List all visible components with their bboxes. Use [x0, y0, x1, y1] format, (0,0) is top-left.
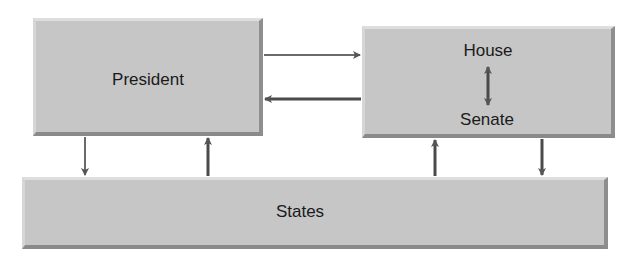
arrows-layer [0, 0, 630, 262]
